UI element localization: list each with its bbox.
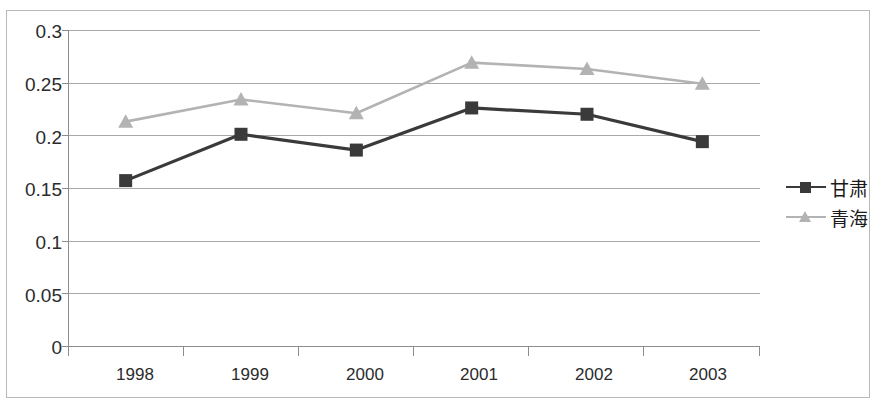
- legend-item-gansu[interactable]: 甘肃: [786, 172, 872, 202]
- data-point-marker-square[interactable]: [696, 135, 709, 148]
- data-point-marker-square[interactable]: [465, 101, 478, 114]
- data-point-marker-square[interactable]: [350, 144, 363, 157]
- series-gansu: [119, 101, 709, 187]
- legend-label: 甘肃: [830, 174, 868, 201]
- data-point-marker-triangle[interactable]: [234, 92, 249, 106]
- plot-area: [0, 0, 876, 404]
- chart-container: 0.3 0.25 0.2 0.15 0.1 0.05 0 1998 1999 2…: [0, 0, 876, 404]
- series-line: [126, 108, 703, 181]
- chart-legend: 甘肃 青海: [786, 172, 872, 232]
- legend-label: 青海: [830, 204, 868, 231]
- legend-swatch-triangle: [786, 210, 826, 224]
- data-series-layer: [118, 55, 710, 187]
- series-line: [126, 63, 703, 122]
- y-axis-ticks: [62, 31, 68, 347]
- data-point-marker-square[interactable]: [119, 174, 132, 187]
- series-qinghai: [118, 55, 710, 127]
- legend-swatch-square: [786, 180, 826, 194]
- x-axis-ticks: [69, 346, 760, 356]
- data-point-marker-square[interactable]: [235, 128, 248, 141]
- data-point-marker-square[interactable]: [581, 108, 594, 121]
- legend-item-qinghai[interactable]: 青海: [786, 202, 872, 232]
